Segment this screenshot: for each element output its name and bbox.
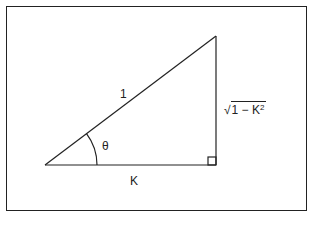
radicand: 1 − K2 — [231, 101, 267, 117]
hypotenuse — [45, 36, 216, 165]
adjacent-k-label: K — [130, 175, 138, 187]
angle-theta-label: θ — [102, 140, 109, 152]
hypotenuse-label: 1 — [120, 88, 127, 100]
right-angle-marker — [208, 157, 216, 165]
opposite-side-label: √1 − K2 — [224, 104, 266, 116]
radical-sign: √ — [224, 103, 231, 117]
angle-arc — [87, 134, 98, 165]
